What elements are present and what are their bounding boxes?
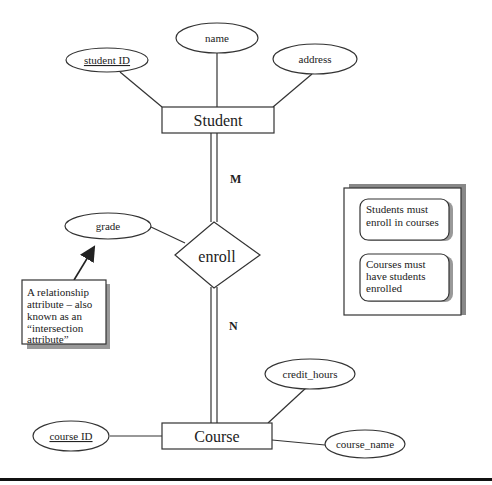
entity-student-label: Student — [194, 112, 243, 129]
attribute-grade-label: grade — [96, 220, 121, 232]
constraints-box: Students must enroll in courses Courses … — [344, 184, 466, 315]
callout-line: attribute – also — [27, 298, 93, 310]
entity-course-label: Course — [194, 428, 239, 445]
bottom-divider — [0, 478, 492, 481]
constraint-note-students: Students must enroll in courses — [360, 199, 453, 241]
svg-text:Students must enroll i: Students must enroll in courses — [366, 203, 439, 228]
attribute-course-id[interactable]: course ID — [33, 421, 109, 451]
constraint-line: Students must — [366, 203, 428, 215]
attribute-grade[interactable]: grade — [65, 213, 151, 239]
attribute-name[interactable]: name — [176, 23, 258, 53]
relationship-enroll[interactable]: enroll — [175, 222, 260, 288]
callout-line: A relationship — [27, 286, 90, 298]
er-diagram-canvas: Student Course enroll student ID name ad… — [0, 0, 492, 485]
constraint-line: have students — [366, 270, 426, 282]
constraint-line: enrolled — [366, 282, 403, 294]
constraint-line: enroll in courses — [366, 216, 439, 228]
attribute-address[interactable]: address — [273, 44, 357, 74]
constraint-line: Courses must — [366, 258, 426, 270]
entity-course[interactable]: Course — [162, 423, 272, 449]
callout-note: A relationship attribute – also known as… — [22, 280, 110, 349]
attribute-name-label: name — [205, 32, 229, 44]
callout-line: known as an — [27, 310, 82, 322]
cardinality-n: N — [229, 319, 238, 333]
attribute-credit-hours[interactable]: credit_hours — [265, 359, 355, 389]
callout-line: attribute” — [27, 333, 69, 345]
attribute-credit-hours-label: credit_hours — [283, 368, 338, 380]
callout-arrow-icon — [74, 252, 91, 280]
constraint-note-courses: Courses must have students enrolled — [360, 254, 453, 302]
cardinality-m: M — [230, 172, 241, 186]
attribute-course-name-label: course_name — [336, 438, 394, 450]
attribute-course-name[interactable]: course_name — [325, 430, 405, 458]
attribute-student-id[interactable]: student ID — [66, 48, 148, 72]
attribute-course-id-label: course ID — [49, 430, 92, 442]
relationship-enroll-label: enroll — [198, 248, 236, 265]
attribute-address-label: address — [299, 53, 332, 65]
attribute-student-id-label: student ID — [84, 54, 130, 66]
entity-student[interactable]: Student — [162, 107, 274, 133]
